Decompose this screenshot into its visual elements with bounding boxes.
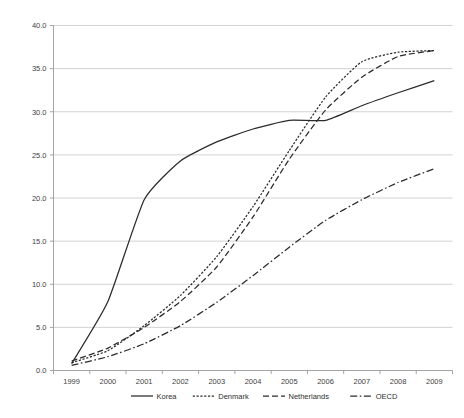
x-tick-label: 1999: [63, 377, 80, 386]
x-tick-label: 2000: [100, 377, 117, 386]
legend-label-denmark: Denmark: [218, 392, 249, 401]
x-tick-label: 2008: [390, 377, 407, 386]
x-tick-label: 2009: [426, 377, 443, 386]
legend-label-korea: Korea: [157, 392, 178, 401]
y-tick-label: 40.0: [32, 21, 47, 30]
x-tick-label: 2006: [317, 377, 334, 386]
chart-background: [0, 0, 464, 418]
y-tick-label: 5.0: [36, 323, 46, 332]
chart-container: 0.05.010.015.020.025.030.035.040.0 19992…: [0, 0, 464, 418]
y-tick-label: 35.0: [32, 64, 47, 73]
y-tick-label: 10.0: [32, 280, 47, 289]
x-tick-label: 2004: [245, 377, 262, 386]
y-tick-label: 20.0: [32, 194, 47, 203]
x-tick-label: 2005: [281, 377, 298, 386]
y-tick-label: 25.0: [32, 151, 47, 160]
y-tick-label: 0.0: [36, 366, 46, 375]
legend-label-oecd: OECD: [376, 392, 398, 401]
x-tick-label: 2007: [353, 377, 370, 386]
legend-label-netherlands: Netherlands: [289, 392, 330, 401]
y-tick-label: 15.0: [32, 237, 47, 246]
x-tick-label: 2001: [136, 377, 153, 386]
line-chart: 0.05.010.015.020.025.030.035.040.0 19992…: [0, 0, 464, 418]
x-tick-label: 2003: [208, 377, 225, 386]
x-tick-label: 2002: [172, 377, 189, 386]
y-tick-label: 30.0: [32, 108, 47, 117]
